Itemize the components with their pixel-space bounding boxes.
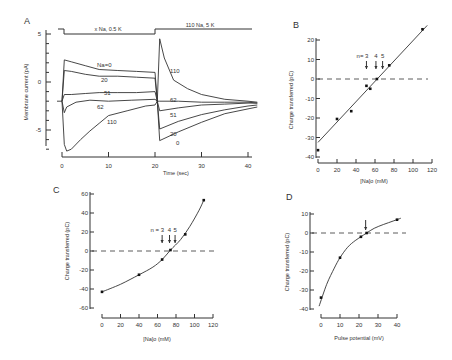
arrow-label: n = 3 xyxy=(151,227,165,233)
panel-c-plot: 6040200-20-40-60020406080100120n = 345 xyxy=(79,191,218,328)
tick-label: 0 xyxy=(311,76,315,82)
tick-label: 10 xyxy=(105,163,112,169)
tick-label: 60 xyxy=(372,167,379,173)
tick-label: 40 xyxy=(136,322,143,328)
tick-label: 120 xyxy=(208,322,219,328)
fit-curve xyxy=(319,218,401,306)
data-point xyxy=(339,256,342,259)
tick-label: 0 xyxy=(316,167,320,173)
data-point xyxy=(365,85,368,88)
tick-label: -40 xyxy=(299,306,308,312)
panel-b-letter: B xyxy=(293,20,299,30)
data-point xyxy=(138,273,141,276)
tick-label: 120 xyxy=(427,167,438,173)
arrowhead-icon xyxy=(161,240,164,243)
tick-label: 30 xyxy=(198,163,205,169)
arrowhead-icon xyxy=(381,66,384,69)
tick-label: 10 xyxy=(337,322,344,328)
arrowhead-icon xyxy=(168,240,171,243)
data-point xyxy=(169,249,172,252)
panel-a-letter: A xyxy=(24,16,30,26)
panel-c-letter: C xyxy=(53,185,60,195)
data-point xyxy=(161,258,164,261)
data-point xyxy=(101,291,104,294)
tick-label: 20 xyxy=(356,322,363,328)
tick-label: -10 xyxy=(305,96,314,102)
tick-label: 5 xyxy=(38,31,42,37)
tick-label: -30 xyxy=(299,287,308,293)
tick-label: 20 xyxy=(152,163,159,169)
panel-d: D 100-10-20-30-40010203040 Charge transf… xyxy=(284,192,406,341)
panel-b-xlabel: [Na]o (mM) xyxy=(360,178,388,184)
tick-label: 0 xyxy=(85,248,89,254)
arrow-label: n= 3 xyxy=(357,53,370,59)
tick-label: 20 xyxy=(307,37,314,43)
tick-label: 100 xyxy=(408,167,419,173)
trace-label: 20 xyxy=(101,77,108,83)
tick-label: 60 xyxy=(81,191,88,197)
trace-label: 0 xyxy=(176,140,180,146)
panel-a: A 50-5010203040Na=00202051516262110110 x… xyxy=(23,16,257,176)
panel-d-letter: D xyxy=(286,192,293,202)
tick-label: -20 xyxy=(299,268,308,274)
data-point xyxy=(421,28,424,31)
panel-c-xlabel: [Na]o (mM) xyxy=(143,336,171,342)
data-point xyxy=(184,233,187,236)
data-point xyxy=(360,236,363,239)
tick-label: -10 xyxy=(299,249,308,255)
tick-label: 40 xyxy=(81,210,88,216)
data-point xyxy=(365,232,368,235)
fit-line xyxy=(318,25,427,142)
tick-label: 80 xyxy=(173,322,180,328)
panel-c-ylabel: Charge transferred (pC) xyxy=(64,222,70,281)
tick-label: -5 xyxy=(36,127,42,133)
tick-label: -20 xyxy=(305,115,314,121)
panel-a-plot: 50-5010203040Na=00202051516262110110 xyxy=(36,29,258,169)
arrowhead-icon xyxy=(173,240,176,243)
panel-d-plot: 100-10-20-30-40010203040 xyxy=(299,211,406,328)
arrow-label: 4 xyxy=(374,53,378,59)
fit-curve xyxy=(102,200,204,292)
data-point xyxy=(388,64,391,67)
tick-label: 10 xyxy=(307,57,314,63)
data-point xyxy=(376,78,379,81)
arrowhead-icon xyxy=(365,66,368,69)
tick-label: 20 xyxy=(81,229,88,235)
trace-label: 20 xyxy=(170,131,177,137)
tick-label: 0 xyxy=(60,163,64,169)
tick-label: 100 xyxy=(189,322,200,328)
tick-label: -20 xyxy=(79,267,88,273)
tick-label: 30 xyxy=(375,322,382,328)
tick-label: 60 xyxy=(154,322,161,328)
protocol-trace xyxy=(58,29,252,34)
tick-label: 0 xyxy=(319,322,323,328)
tick-label: 0 xyxy=(305,230,309,236)
trace-label: 110 xyxy=(107,119,117,125)
figure: A 50-5010203040Na=00202051516262110110 x… xyxy=(0,0,452,360)
data-point xyxy=(369,87,372,90)
tick-label: -60 xyxy=(79,305,88,311)
tick-label: 40 xyxy=(245,163,252,169)
panel-d-xlabel: Pulse potential (mV) xyxy=(334,335,384,341)
panel-a-xlabel: Time (sec) xyxy=(163,170,189,176)
tick-label: 0 xyxy=(100,322,104,328)
panel-b: B 20100-10-20-30-40020406080100120n= 345… xyxy=(288,20,438,184)
data-point xyxy=(396,218,399,221)
trace-label: 51 xyxy=(170,112,177,118)
tick-label: -40 xyxy=(305,154,314,160)
trace-label: 110 xyxy=(170,68,180,74)
panel-b-plot: 20100-10-20-30-40020406080100120n= 345 xyxy=(305,25,437,173)
protocol-label-right: 110 Na, 5 K xyxy=(186,22,215,28)
trace-label: 62 xyxy=(170,97,177,103)
tick-label: 0 xyxy=(38,79,42,85)
data-point xyxy=(336,118,339,121)
tick-label: -40 xyxy=(79,286,88,292)
arrow-label: 5 xyxy=(381,53,385,59)
tick-label: 80 xyxy=(391,167,398,173)
tick-label: 40 xyxy=(353,167,360,173)
trace-label: Na=0 xyxy=(97,62,112,68)
panel-b-ylabel: Charge transferred (pC) xyxy=(288,71,294,130)
tick-label: 40 xyxy=(394,322,401,328)
trace-label: 62 xyxy=(97,104,104,110)
arrow-label: 4 xyxy=(168,227,172,233)
